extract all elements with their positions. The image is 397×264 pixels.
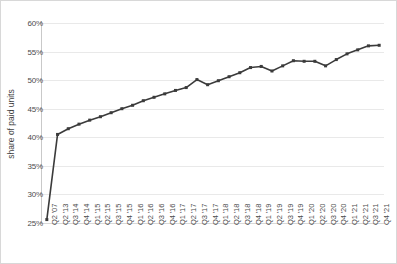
x-axis-tick-label: Q1 '19 [264,204,273,225]
y-axis-title: share of paid units [6,0,16,249]
x-axis-tick-label: Q4 '21 [382,204,391,225]
x-axis-tick-label: Q4 '19 [296,204,305,225]
plot-area: 25%30%35%40%45%50%55%60% [42,23,384,223]
data-point [335,58,338,61]
x-axis-tick-label: Q2 '07 [50,204,59,225]
data-point [88,119,91,122]
x-axis-tick-label: Q4 '14 [82,204,91,225]
y-axis-tick-label: 55% [28,47,43,56]
data-point [281,64,284,67]
data-point [185,86,188,89]
x-axis-tick-label: Q1 '16 [136,204,145,225]
x-axis-tick-label: Q2 '19 [275,204,284,225]
y-axis-tick-label: 40% [28,133,43,142]
x-axis-tick-label: Q3 '20 [329,204,338,225]
x-axis-tick-label: Q2 '20 [318,204,327,225]
x-axis-tick-label: Q3 '19 [286,204,295,225]
x-axis-tick-label: Q3 '18 [243,204,252,225]
data-point [249,66,252,69]
x-axis-tick-label: Q3 '21 [371,204,380,225]
data-point [228,75,231,78]
y-axis-tick-label: 30% [28,190,43,199]
data-point [131,104,134,107]
data-point [120,107,123,110]
data-point [346,52,349,55]
data-point [367,44,370,47]
x-axis-tick-label: Q4 '15 [125,204,134,225]
series-polyline [47,45,379,219]
x-axis-tick-label: Q2 '17 [189,204,198,225]
data-point [142,99,145,102]
x-axis-tick-label: Q4 '18 [254,204,263,225]
series-markers [45,44,380,221]
data-point [195,78,198,81]
data-point [324,64,327,67]
data-point [270,70,273,73]
data-point [56,133,59,136]
x-axis-tick-label: Q4 '20 [339,204,348,225]
x-axis-tick-label: Q3 '17 [200,204,209,225]
x-axis-tick-label: Q1 '15 [93,204,102,225]
data-point [174,89,177,92]
y-axis-tick-label: 25% [28,219,43,228]
y-axis-tick-label: 45% [28,104,43,113]
data-point [378,44,381,47]
data-point [67,127,70,130]
x-axis-tick-label: Q2 '13 [61,204,70,225]
line-series [42,23,384,223]
x-axis-tick-label: Q1 '17 [178,204,187,225]
chart-container: share of paid units 25%30%35%40%45%50%55… [0,0,397,264]
x-axis-tick-label: Q4 '17 [211,204,220,225]
data-point [206,83,209,86]
data-point [356,48,359,51]
data-point [217,79,220,82]
data-point [313,60,316,63]
x-axis-tick-label: Q2 '16 [146,204,155,225]
data-point [163,92,166,95]
x-axis-tick-label: Q1 '20 [307,204,316,225]
x-axis-tick-label: Q1 '18 [221,204,230,225]
x-axis-tick-label: Q3 '16 [157,204,166,225]
data-point [303,60,306,63]
y-axis-tick-label: 50% [28,76,43,85]
x-axis-tick-label: Q2 '21 [361,204,370,225]
x-axis-tick-label: Q3 '14 [71,204,80,225]
x-axis-tick-label: Q4 '16 [168,204,177,225]
x-axis-tick-label: Q3 '15 [114,204,123,225]
data-point [45,218,48,221]
data-point [260,65,263,68]
x-axis-tick-labels: Q2 '07Q2 '13Q3 '14Q4 '14Q1 '15Q2 '15Q3 '… [42,225,384,264]
data-point [99,115,102,118]
data-point [292,59,295,62]
data-point [153,96,156,99]
x-axis-tick-label: Q2 '15 [103,204,112,225]
x-axis-tick-label: Q1 '21 [350,204,359,225]
data-point [238,71,241,74]
y-axis-title-wrapper: share of paid units [1,1,21,264]
y-axis-tick-label: 35% [28,161,43,170]
x-axis-tick-label: Q2 '18 [232,204,241,225]
data-point [77,123,80,126]
data-point [110,111,113,114]
y-axis-tick-label: 60% [28,19,43,28]
